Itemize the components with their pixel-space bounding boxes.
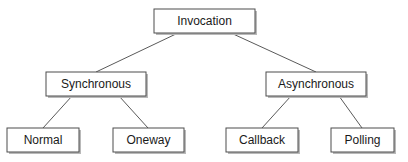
node-synchronous[interactable]: Synchronous (46, 72, 148, 98)
node-label-oneway: Oneway (126, 133, 170, 147)
node-label-invocation: Invocation (177, 14, 232, 28)
edge-synchronous-to-oneway (119, 96, 148, 128)
edge-asynchronous-to-polling (339, 96, 362, 128)
node-normal[interactable]: Normal (7, 128, 81, 154)
node-label-synchronous: Synchronous (61, 77, 131, 91)
node-asynchronous[interactable]: Asynchronous (266, 72, 368, 98)
node-polling[interactable]: Polling (331, 128, 396, 154)
node-callback[interactable]: Callback (226, 128, 300, 154)
nodes-layer: InvocationSynchronousAsynchronousNormalO… (7, 9, 396, 154)
node-label-callback: Callback (239, 133, 286, 147)
edge-invocation-to-asynchronous (231, 33, 316, 72)
diagram-canvas: InvocationSynchronousAsynchronousNormalO… (0, 0, 408, 162)
invocation-tree-diagram: InvocationSynchronousAsynchronousNormalO… (0, 0, 408, 162)
node-label-normal: Normal (24, 133, 63, 147)
edge-synchronous-to-normal (43, 96, 72, 128)
node-label-asynchronous: Asynchronous (278, 77, 354, 91)
edge-asynchronous-to-callback (262, 96, 291, 128)
node-invocation[interactable]: Invocation (154, 9, 257, 35)
node-oneway[interactable]: Oneway (113, 128, 186, 154)
node-label-polling: Polling (344, 133, 380, 147)
edge-invocation-to-synchronous (96, 33, 178, 72)
